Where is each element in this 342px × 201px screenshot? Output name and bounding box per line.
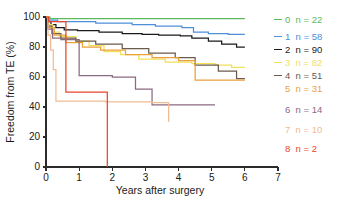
legend-item-label: 0 n = 22	[285, 14, 322, 25]
legend-item-label: 4 n = 51	[285, 70, 322, 81]
legend-line-icon	[274, 75, 282, 76]
x-tick-label: 1	[76, 172, 82, 183]
y-tick-label: 20	[29, 131, 41, 142]
legend-item-label: 3 n = 82	[285, 57, 322, 68]
x-tick-label: 3	[143, 172, 149, 183]
x-tick-label: 6	[242, 172, 248, 183]
legend-line-icon	[274, 109, 282, 110]
x-tick-label: 2	[110, 172, 116, 183]
y-tick-label: 60	[29, 71, 41, 82]
legend-item-1[interactable]: 1 n = 58	[274, 31, 322, 42]
legend-item-label: 7 n = 10	[285, 124, 322, 135]
legend-line-icon	[274, 36, 282, 37]
legend-item-label: 1 n = 58	[285, 31, 322, 42]
y-axis-title: Freedom from TE (%)	[4, 41, 16, 142]
survival-curve-4	[46, 17, 245, 79]
legend-line-icon	[274, 129, 282, 130]
survival-curve-0	[46, 17, 245, 19]
legend-item-label: 8 n = 2	[285, 143, 317, 154]
legend-item-5[interactable]: 5 n = 31	[274, 83, 322, 94]
x-tick-label: 4	[176, 172, 182, 183]
survival-curves	[46, 17, 245, 167]
legend-item-0[interactable]: 0 n = 22	[274, 14, 322, 25]
legend-item-label: 6 n = 14	[285, 104, 322, 115]
legend-line-icon	[274, 62, 282, 63]
legend-line-icon	[274, 19, 282, 20]
legend: 0 n = 221 n = 582 n = 903 n = 824 n = 51…	[274, 0, 342, 201]
x-tick-label: 0	[43, 172, 49, 183]
x-axis-ticks: 01234567	[43, 167, 281, 183]
y-tick-label: 40	[29, 101, 41, 112]
legend-item-2[interactable]: 2 n = 90	[274, 44, 322, 55]
legend-line-icon	[274, 148, 282, 149]
legend-item-7[interactable]: 7 n = 10	[274, 124, 322, 135]
legend-item-4[interactable]: 4 n = 51	[274, 70, 322, 81]
legend-item-8[interactable]: 8 n = 2	[274, 143, 317, 154]
survival-curve-1	[46, 17, 245, 34]
legend-line-icon	[274, 88, 282, 89]
legend-item-label: 2 n = 90	[285, 44, 322, 55]
legend-line-icon	[274, 49, 282, 50]
y-tick-label: 0	[34, 161, 40, 172]
y-tick-label: 100	[23, 11, 40, 22]
x-axis-title: Years after surgery	[116, 184, 205, 196]
chart-figure: 020406080100 01234567 Freedom from TE (%…	[0, 0, 342, 201]
x-tick-label: 5	[209, 172, 215, 183]
y-tick-label: 80	[29, 41, 41, 52]
legend-item-6[interactable]: 6 n = 14	[274, 104, 322, 115]
legend-item-3[interactable]: 3 n = 82	[274, 57, 322, 68]
y-axis-ticks: 020406080100	[23, 11, 46, 172]
legend-item-label: 5 n = 31	[285, 83, 322, 94]
